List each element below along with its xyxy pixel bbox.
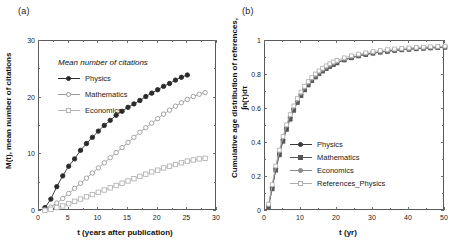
- x-tick-major-top: [127, 40, 128, 43]
- x-tick-minor: [201, 208, 202, 210]
- x-tick-minor: [83, 208, 84, 210]
- x-tick-label: 20: [332, 214, 340, 221]
- x-tick-major: [186, 207, 187, 210]
- legend-marker-icon: [290, 154, 312, 162]
- x-tick-minor: [426, 208, 427, 210]
- y-tick-minor-right: [442, 193, 444, 194]
- panel-b-plot-area: 00.20.40.60.81 01020304050 PhysicsMathem…: [228, 18, 457, 218]
- y-tick-minor-right: [214, 182, 216, 183]
- y-tick-label: 1: [242, 37, 261, 44]
- x-tick-minor-top: [282, 40, 283, 42]
- legend-marker-icon: [290, 167, 312, 175]
- x-tick-label: 0: [262, 214, 266, 221]
- y-tick-minor: [38, 182, 40, 183]
- x-tick-minor-top: [142, 40, 143, 42]
- legend-item: Mathematics: [290, 153, 385, 162]
- legend-item: Economics: [290, 166, 385, 175]
- y-tick-major-right: [213, 210, 216, 211]
- x-tick-minor-top: [354, 40, 355, 42]
- legend-marker-icon: [290, 141, 312, 149]
- panel-a-x-axis-title: t (years after publication): [30, 228, 220, 237]
- y-tick-label: 0.6: [242, 105, 261, 112]
- legend-label: Mathematics: [317, 153, 360, 162]
- y-tick-major: [264, 142, 267, 143]
- y-tick-major-right: [441, 210, 444, 211]
- figure-container: (a) M(t), mean number of citations t (ye…: [0, 0, 457, 247]
- y-tick-minor-right: [442, 159, 444, 160]
- x-tick-major: [372, 207, 373, 210]
- x-tick-label: 5: [66, 214, 70, 221]
- x-tick-label: 40: [404, 214, 412, 221]
- legend-item: Physics: [58, 74, 148, 83]
- panel-b-x-axis-title: t (yr): [248, 228, 448, 237]
- y-tick-minor: [264, 125, 266, 126]
- y-tick-major-right: [213, 153, 216, 154]
- x-tick-major-top: [444, 40, 445, 43]
- y-tick-minor: [264, 108, 266, 109]
- x-tick-minor: [112, 208, 113, 210]
- y-tick-minor: [38, 68, 40, 69]
- y-tick-major: [38, 97, 41, 98]
- y-tick-minor-right: [214, 68, 216, 69]
- x-tick-minor: [318, 208, 319, 210]
- legend-item: Mathematics: [58, 90, 148, 99]
- legend-marker-icon: [58, 91, 80, 99]
- x-tick-minor: [354, 208, 355, 210]
- x-tick-minor: [390, 208, 391, 210]
- x-tick-label: 30: [212, 214, 220, 221]
- x-tick-minor-top: [53, 40, 54, 42]
- x-tick-major-top: [97, 40, 98, 43]
- legend-label: Physics: [317, 140, 343, 149]
- y-tick-label: 20: [16, 93, 35, 100]
- y-tick-minor-right: [214, 125, 216, 126]
- panel-a-legend: Mean number of citations PhysicsMathemat…: [58, 58, 148, 122]
- y-tick-major-right: [441, 176, 444, 177]
- x-tick-major-top: [336, 40, 337, 43]
- panel-a-label: (a): [18, 6, 30, 16]
- x-tick-major: [97, 207, 98, 210]
- x-tick-major-top: [38, 40, 39, 43]
- x-tick-major: [300, 207, 301, 210]
- y-tick-label: 10: [16, 150, 35, 157]
- x-tick-major: [68, 207, 69, 210]
- x-tick-major-top: [68, 40, 69, 43]
- x-tick-major-top: [186, 40, 187, 43]
- x-tick-major: [408, 207, 409, 210]
- legend-item: References_Physics: [290, 179, 385, 188]
- y-tick-label: 0: [242, 207, 261, 214]
- x-tick-minor: [282, 208, 283, 210]
- legend-label: Physics: [85, 74, 111, 83]
- legend-label: Mathematics: [85, 90, 128, 99]
- y-tick-minor-right: [442, 125, 444, 126]
- x-tick-major: [336, 207, 337, 210]
- x-tick-label: 20: [153, 214, 161, 221]
- x-tick-major: [264, 207, 265, 210]
- x-tick-minor-top: [172, 40, 173, 42]
- y-tick-major: [38, 210, 41, 211]
- x-tick-major: [127, 207, 128, 210]
- x-tick-major: [157, 207, 158, 210]
- legend-marker-icon: [290, 180, 312, 188]
- y-tick-major: [38, 153, 41, 154]
- y-tick-major-right: [441, 142, 444, 143]
- x-tick-major-top: [264, 40, 265, 43]
- y-tick-minor: [264, 193, 266, 194]
- x-tick-major-top: [408, 40, 409, 43]
- x-tick-label: 15: [123, 214, 131, 221]
- x-tick-major-top: [372, 40, 373, 43]
- x-tick-major: [38, 207, 39, 210]
- legend-item: Economics: [58, 106, 148, 115]
- x-tick-minor: [172, 208, 173, 210]
- x-tick-major-top: [157, 40, 158, 43]
- y-tick-label: 0.8: [242, 71, 261, 78]
- x-tick-major: [216, 207, 217, 210]
- y-tick-minor: [264, 57, 266, 58]
- y-tick-minor: [264, 74, 266, 75]
- x-tick-minor-top: [112, 40, 113, 42]
- legend-label: References_Physics: [317, 179, 385, 188]
- y-tick-label: 30: [16, 37, 35, 44]
- x-tick-minor-top: [426, 40, 427, 42]
- y-tick-minor: [264, 159, 266, 160]
- panel-a-legend-title: Mean number of citations: [58, 58, 148, 67]
- x-tick-label: 30: [368, 214, 376, 221]
